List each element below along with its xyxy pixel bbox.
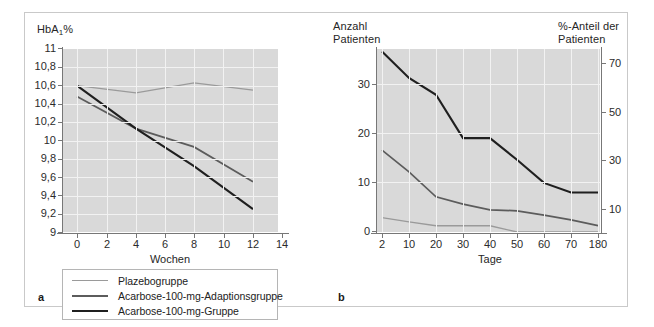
panel-a-xtick-label: 8 <box>180 238 208 250</box>
panel-a-plot-area <box>63 49 278 232</box>
panel-b-ytick-label-left: 30 <box>332 78 370 90</box>
panel-a: HbA1% <box>0 0 330 327</box>
panel-b-ytick-label-left: 0 <box>332 225 370 237</box>
panel-a-xtick-label: 14 <box>268 238 296 250</box>
legend-swatch-adaption <box>72 295 108 297</box>
legend: Plazebogruppe Acarbose-100-mg-Adaptionsg… <box>62 269 278 320</box>
panel-a-ytick-label: 10,4 <box>14 97 56 109</box>
panel-b-ytick-label-left: 20 <box>332 127 370 139</box>
figure-root: HbA1% <box>0 0 654 327</box>
panel-b-ytick-label-right: 50 <box>609 106 643 118</box>
panel-b-y-axis-line-right <box>601 47 602 234</box>
panel-b-xtick-label: 40 <box>476 238 504 250</box>
panel-b-xtick-label: 30 <box>449 238 477 250</box>
panel-b-letter: b <box>338 291 345 303</box>
panel-a-x-axis-caption: Wochen <box>120 253 220 265</box>
panel-b-xtick-label: 60 <box>530 238 558 250</box>
panel-b-xtick-label: 2 <box>368 238 396 250</box>
panel-b: Anzahl Patienten %-Anteil der Patienten <box>330 0 654 327</box>
panel-b-xtick-label: 180 <box>584 238 612 250</box>
panel-a-xtick-label: 2 <box>93 238 121 250</box>
legend-item: Acarbose-100-mg-Adaptionsgruppe <box>63 288 277 303</box>
panel-b-x-axis-caption: Tage <box>440 253 540 265</box>
panel-a-ytick-label: 9,2 <box>14 207 56 219</box>
legend-swatch-acarbose <box>72 310 108 312</box>
panel-b-xtick-label: 50 <box>503 238 531 250</box>
panel-b-plot-area <box>377 49 600 232</box>
panel-b-ytick-label-left: 10 <box>332 176 370 188</box>
panel-a-ytick-label: 9,6 <box>14 171 56 183</box>
panel-a-xtick-label: 10 <box>210 238 238 250</box>
legend-item: Plazebogruppe <box>63 273 277 288</box>
panel-a-ytick-label: 11 <box>14 42 56 54</box>
panel-b-ytick-label-right: 10 <box>609 203 643 215</box>
panel-b-xtick-label: 70 <box>557 238 585 250</box>
panel-b-y-axis-title-left: Anzahl Patienten <box>333 20 380 45</box>
panel-b-xtick-label: 20 <box>422 238 450 250</box>
legend-label: Acarbose-100-mg-Gruppe <box>118 305 239 317</box>
panel-a-ytick-label: 10,2 <box>14 115 56 127</box>
panel-a-letter: a <box>38 291 44 303</box>
panel-b-y-axis-title-right: %-Anteil der Patienten <box>558 20 619 45</box>
panel-a-ytick-label: 10,6 <box>14 79 56 91</box>
legend-swatch-plazebo <box>72 280 108 281</box>
panel-a-xtick-label: 4 <box>122 238 150 250</box>
legend-label: Acarbose-100-mg-Adaptionsgruppe <box>118 290 283 302</box>
legend-label: Plazebogruppe <box>118 275 188 287</box>
panel-b-ytick-label-right: 70 <box>609 57 643 69</box>
panel-a-ytick-label: 9,4 <box>14 189 56 201</box>
panel-a-xtick-label: 12 <box>239 238 267 250</box>
panel-a-x-axis-line <box>57 233 289 234</box>
panel-a-ytick-label: 9,8 <box>14 152 56 164</box>
panel-b-curves <box>377 49 600 232</box>
panel-b-y-axis-line-left <box>376 47 377 234</box>
panel-a-y-axis-line <box>62 47 63 234</box>
panel-a-xtick-label: 6 <box>151 238 179 250</box>
panel-a-ytick-label: 9 <box>14 226 56 238</box>
legend-item: Acarbose-100-mg-Gruppe <box>63 303 277 318</box>
panel-a-ytick-label: 10 <box>14 134 56 146</box>
panel-a-y-axis-title: HbA1% <box>37 23 73 38</box>
panel-a-ytick-label: 10,8 <box>14 60 56 72</box>
panel-b-ytick-label-right: 30 <box>609 154 643 166</box>
panel-b-xtick-label: 10 <box>395 238 423 250</box>
panel-a-xtick-label: 0 <box>63 238 91 250</box>
